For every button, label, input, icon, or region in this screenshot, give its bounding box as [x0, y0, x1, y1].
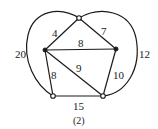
- weight-label-bottom: 15: [73, 100, 85, 112]
- weight-label-right-arc: 12: [139, 48, 150, 60]
- edge-top-bottom-left-curved: [27, 11, 79, 96]
- edge-top-right: [79, 18, 116, 49]
- node-right: [114, 47, 118, 51]
- edge-top-left: [45, 18, 79, 50]
- weight-label-right-bottom-right: 10: [113, 69, 125, 81]
- node-bottom-left: [51, 94, 56, 99]
- node-bottom-right: [101, 94, 106, 99]
- edge-left-right: [45, 49, 116, 50]
- weight-label-left-bottom-right: 9: [76, 62, 82, 74]
- node-left: [43, 48, 47, 52]
- graph-diagram: 4 7 8 8 9 10 15 20 12 (2): [0, 0, 158, 129]
- weight-label-top-right: 7: [101, 25, 107, 37]
- weight-label-left-bottom-left: 8: [51, 69, 57, 81]
- figure-caption: (2): [73, 115, 85, 127]
- weight-label-left-arc: 20: [15, 48, 27, 60]
- node-top: [77, 16, 82, 21]
- weight-label-top-left: 4: [52, 27, 58, 39]
- weight-label-left-right: 8: [78, 37, 84, 49]
